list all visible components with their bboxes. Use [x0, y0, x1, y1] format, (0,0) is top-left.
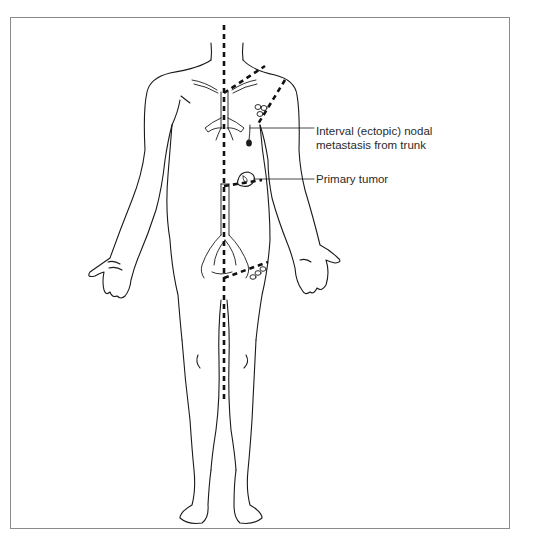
interval-node — [247, 140, 252, 146]
axillary-node-3 — [257, 112, 263, 117]
umbilical-dashed — [224, 180, 262, 186]
right-hand-detail — [300, 259, 311, 262]
inguinal-node-1 — [250, 275, 256, 280]
right-knee-mark — [244, 355, 248, 368]
body-diagram — [0, 0, 535, 538]
left-hand-detail2 — [109, 267, 122, 270]
neck-right — [243, 43, 244, 60]
left-chest-mark — [181, 96, 190, 103]
left-knee-mark — [197, 355, 200, 368]
inguinal-node-3 — [260, 267, 266, 272]
inguinal-node-2 — [255, 271, 261, 276]
interval-metastasis-label: Interval (ectopic) nodal metastasis from… — [316, 124, 432, 152]
left-leg-inner — [211, 300, 221, 470]
interval-node-stalk — [249, 125, 250, 140]
primary-tumor-label: Primary tumor — [316, 172, 388, 186]
interval-label-line2: metastasis from trunk — [316, 138, 432, 152]
left-leg-outer — [180, 340, 211, 523]
right-leg-inner — [227, 300, 236, 470]
right-leg-outer — [234, 340, 262, 523]
left-armpit — [172, 100, 180, 125]
primary-tumor-shape — [238, 172, 255, 186]
interval-label-line1: Interval (ectopic) nodal — [316, 124, 432, 138]
torso-left — [167, 125, 182, 340]
axillary-node-1 — [255, 105, 261, 110]
axillary-node-2 — [261, 106, 267, 111]
primary-tumor-inner — [243, 176, 247, 182]
left-hand-detail — [108, 261, 120, 264]
left-clavicle — [192, 80, 218, 93]
neck-left — [211, 43, 212, 60]
inguinal-dashed — [224, 262, 268, 278]
left-arm-outline — [89, 60, 211, 298]
axilla-dashed — [258, 80, 285, 124]
